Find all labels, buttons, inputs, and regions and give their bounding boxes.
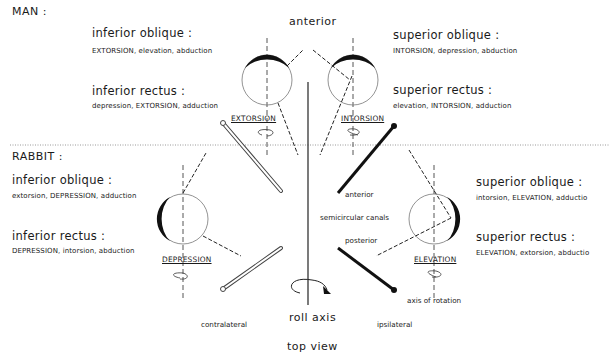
- man-inferior-rectus-actions: depression, EXTORSION, adduction: [92, 102, 218, 110]
- top-view-label: top view: [287, 340, 338, 353]
- rabbit-inferior-rectus-actions: DEPRESSION, intorsion, abduction: [12, 247, 135, 255]
- canal-anterior-label: anterior: [345, 190, 374, 199]
- roll-arrow-icon: [291, 279, 327, 293]
- rabbit-superior-rectus-name: superior rectus :: [476, 230, 575, 244]
- rabbit-depression-label: DEPRESSION: [162, 255, 212, 264]
- rabbit-inferior-rectus-name: inferior rectus :: [12, 229, 105, 243]
- man-inferior-oblique-actions: EXTORSION, elevation, abduction: [92, 47, 212, 55]
- rabbit-right-eye-icon: [376, 150, 460, 300]
- rabbit-section-title: RABBIT :: [12, 150, 63, 163]
- man-section-title: MAN :: [12, 5, 47, 18]
- rabbit-inferior-oblique-actions: extorsion, DEPRESSION, adduction: [12, 192, 137, 200]
- ipsilateral-label: ipsilateral: [377, 320, 412, 329]
- rabbit-elevation-label: ELEVATION: [414, 255, 456, 264]
- man-inferior-oblique-name: inferior oblique :: [92, 26, 192, 40]
- roll-axis-label: roll axis: [289, 311, 336, 324]
- canal-posterior-label: posterior: [345, 236, 377, 245]
- semicircular-canals-label: semicircular canals: [320, 213, 389, 222]
- rabbit-left-eye-icon: [157, 153, 241, 300]
- rabbit-superior-oblique-name: superior oblique :: [476, 175, 582, 189]
- rabbit-superior-oblique-actions: intorsion, ELEVATION, adductio: [476, 194, 587, 202]
- man-superior-rectus-actions: elevation, INTORSION, adduction: [393, 102, 511, 110]
- man-extorsion-label: EXTORSION: [231, 114, 276, 123]
- man-right-eye-icon: [313, 38, 378, 155]
- left-posterior-canal-rod: [221, 248, 282, 292]
- man-inferior-rectus-name: inferior rectus :: [92, 84, 185, 98]
- rabbit-superior-rectus-actions: ELEVATION, extorsion, abductio: [476, 249, 589, 257]
- man-intorsion-label: INTORSION: [341, 114, 384, 123]
- man-left-eye-icon: [242, 38, 303, 155]
- man-superior-oblique-name: superior oblique :: [393, 28, 499, 42]
- right-posterior-canal-rod: [338, 248, 394, 290]
- rabbit-inferior-oblique-name: inferior oblique :: [12, 173, 112, 187]
- anterior-label: anterior: [289, 15, 337, 28]
- contralateral-label: contralateral: [201, 320, 247, 329]
- axis-of-rotation-label: axis of rotation: [407, 296, 461, 305]
- man-superior-rectus-name: superior rectus :: [393, 83, 492, 97]
- right-anterior-canal-rod: [338, 126, 394, 193]
- man-superior-oblique-actions: INTORSION, depression, abduction: [393, 47, 517, 55]
